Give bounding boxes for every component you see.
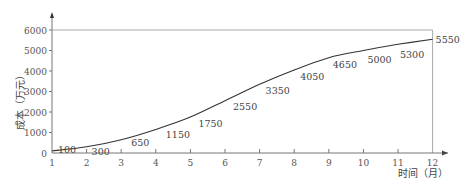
x-axis-arrow-icon [442,151,448,156]
data-label: 1150 [166,129,190,140]
x-tick-label: 6 [222,158,228,168]
x-tick-label: 10 [358,158,370,168]
s-curve-chart: 0100020003000400050006000 12345678910111… [0,0,464,195]
x-tick-label: 4 [153,158,159,168]
data-label: 3350 [266,85,290,96]
x-tick-label: 8 [291,158,297,168]
data-labels: 1003006501150175025503350405046505000530… [58,34,460,157]
x-tick-label: 11 [392,158,403,168]
data-label: 650 [131,137,149,148]
y-tick-label: 0 [41,149,47,159]
data-label: 4050 [300,71,324,82]
data-label: 5300 [400,49,424,60]
y-tick-label: 4000 [24,67,47,77]
data-label: 5550 [436,34,460,45]
x-tick-label: 7 [257,158,263,168]
y-axis-arrow-icon [50,12,54,18]
x-tick-label: 2 [84,158,90,168]
data-label: 1750 [198,118,222,129]
data-label: 2550 [233,101,257,112]
y-axis-ticks: 0100020003000400050006000 [24,26,52,159]
data-label: 5000 [367,54,391,65]
data-label: 300 [92,146,110,157]
axes [50,12,448,156]
x-axis-title: 时间（月） [398,167,448,179]
data-label: 4650 [333,59,357,70]
y-tick-label: 2000 [24,108,47,118]
data-label: 100 [58,144,76,155]
y-tick-label: 5000 [24,46,47,56]
x-tick-label: 3 [118,158,124,168]
x-tick-label: 5 [188,158,194,168]
y-tick-label: 3000 [24,87,47,97]
y-tick-label: 6000 [24,26,47,36]
x-tick-label: 12 [427,158,438,168]
y-tick-label: 1000 [24,128,47,138]
x-tick-label: 9 [326,158,332,168]
x-tick-label: 1 [49,158,55,168]
y-axis-title: 成本（万元） [14,70,26,130]
